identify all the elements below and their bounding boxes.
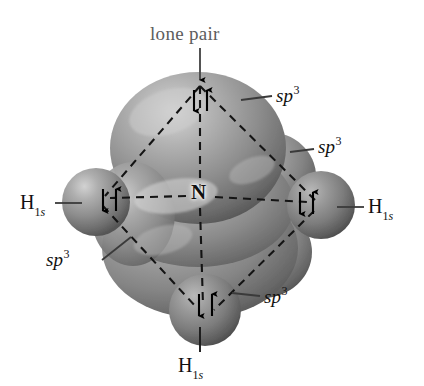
sp3-superscript: 3 xyxy=(335,134,341,148)
sp3-base: sp xyxy=(276,85,293,106)
hydrogen-sub-orbital: s xyxy=(388,209,393,223)
sp3-label-top-right: sp3 xyxy=(276,86,299,105)
hydrogen-sub-orbital: s xyxy=(198,368,203,382)
hydrogen-subscript: 1s xyxy=(192,368,203,382)
hydrogen-1s-sphere-bottom xyxy=(169,274,241,346)
sp3-label-mid-right: sp3 xyxy=(318,137,341,156)
sp3-base: sp xyxy=(264,286,281,307)
hydrogen-label-bottom: H1s xyxy=(178,355,203,375)
sp3-superscript: 3 xyxy=(281,284,287,298)
sp3-label-low-left: sp3 xyxy=(46,250,69,269)
hydrogen-label-left: H1s xyxy=(20,192,45,212)
hydrogen-symbol: H xyxy=(178,354,192,376)
sp3-superscript: 3 xyxy=(293,83,299,97)
hydrogen-label-right: H1s xyxy=(368,196,393,216)
lone-pair-label: lone pair xyxy=(150,24,220,43)
molecule-graphic xyxy=(0,0,424,386)
hydrogen-1s-sphere-right xyxy=(287,171,355,239)
hydrogen-sub-orbital: s xyxy=(40,205,45,219)
sp3-base: sp xyxy=(46,249,63,270)
sp3-superscript: 3 xyxy=(63,247,69,261)
sp3-base: sp xyxy=(318,136,335,157)
hydrogen-subscript: 1s xyxy=(382,209,393,223)
orbital-diagram-figure: lone pair sp3 sp3 sp3 sp3 H1s H1s H1s N xyxy=(0,0,424,386)
hydrogen-subscript: 1s xyxy=(34,205,45,219)
hydrogen-1s-sphere-left xyxy=(62,168,130,236)
hydrogen-symbol: H xyxy=(20,191,34,213)
hydrogen-symbol: H xyxy=(368,195,382,217)
nitrogen-atom-label: N xyxy=(191,182,206,203)
sp3-label-low-right: sp3 xyxy=(264,287,287,306)
